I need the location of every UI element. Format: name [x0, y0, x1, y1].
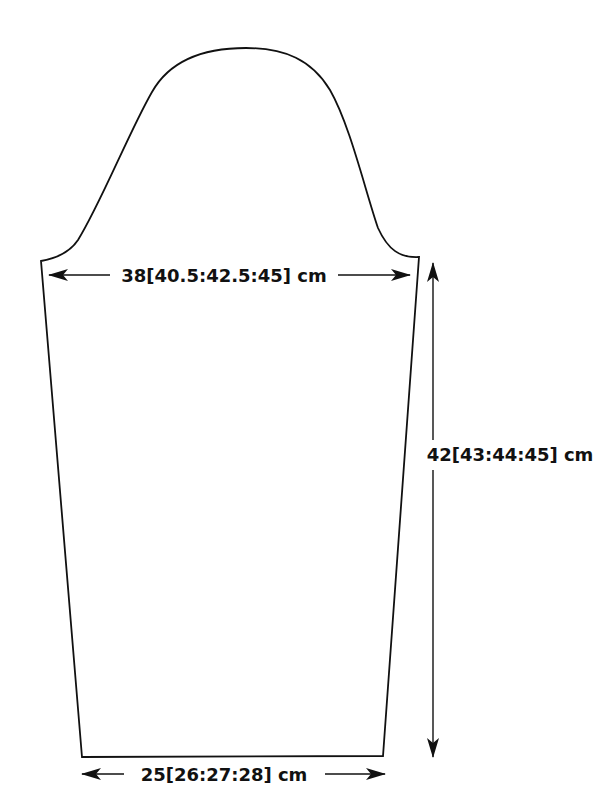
upper-width-dimension: 38[40.5:42.5:45] cm	[49, 265, 410, 286]
cuff-width-label: 25[26:27:28] cm	[141, 764, 308, 785]
length-dimension: 42[43:44:45] cm	[427, 263, 594, 757]
sleeve-diagram: 38[40.5:42.5:45] cm 42[43:44:45] cm 25[2…	[0, 0, 614, 812]
sleeve-outline	[41, 48, 419, 757]
cuff-width-dimension: 25[26:27:28] cm	[82, 764, 385, 785]
length-label: 42[43:44:45] cm	[427, 444, 594, 465]
upper-width-label: 38[40.5:42.5:45] cm	[121, 265, 326, 286]
